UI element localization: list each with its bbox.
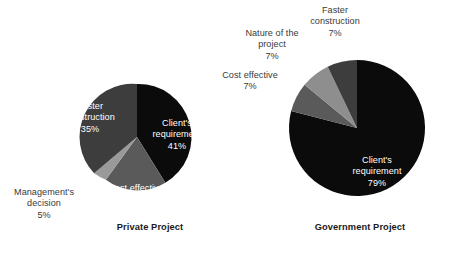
slice-label-left-clients-requirement: Client's requirement 41% — [141, 118, 213, 152]
pie-chart-figure: Faster construction 35% Client's require… — [0, 0, 451, 253]
slice-label-right-clients-requirement: Client's requirement 79% — [340, 155, 414, 189]
slice-label-right-nature-of-the-project: Nature of the project 7% — [234, 28, 310, 62]
chart-caption-government-project: Government Project — [295, 222, 425, 232]
slice-label-left-cost-effective: Cost effective 19% — [98, 183, 174, 206]
slice-label-left-faster-construction: Faster construction 35% — [55, 101, 125, 135]
slice-label-left-managements-decision: Management's decision 5% — [5, 187, 83, 221]
slice-label-right-cost-effective: Cost effective 7% — [210, 70, 290, 93]
chart-caption-private-project: Private Project — [94, 222, 206, 232]
